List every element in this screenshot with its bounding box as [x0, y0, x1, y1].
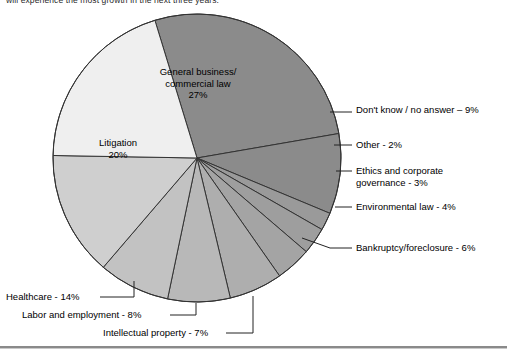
callout-bankruptcy-foreclosure: Bankruptcy/foreclosure - 6%: [356, 242, 475, 254]
slice-label-line: Litigation: [70, 137, 166, 149]
callout-ethics-governance: Ethics and corporate governance - 3%: [356, 165, 496, 188]
slice-label-line: General business/: [128, 66, 268, 78]
chart-canvas: will experience the most growth in the n…: [0, 0, 507, 357]
callout-environmental-law: Environmental law - 4%: [356, 201, 456, 213]
bottom-divider-shadow: [0, 348, 507, 349]
slice-label-litigation: Litigation 20%: [70, 137, 166, 160]
callout-line: governance - 3%: [356, 177, 496, 189]
callout-intellectual-property: Intellectual property - 7%: [103, 327, 208, 339]
slice-label-percent: 20%: [70, 149, 166, 161]
slice-label-line: commercial law: [128, 78, 268, 90]
slice-label-percent: 27%: [128, 89, 268, 101]
leader-line-labor: [170, 303, 196, 315]
callout-line: Ethics and corporate: [356, 165, 496, 177]
slice-label-general-business: General business/ commercial law 27%: [128, 66, 268, 101]
leader-line-intellectual: [226, 296, 253, 333]
callout-healthcare: Healthcare - 14%: [6, 291, 79, 303]
callout-other: Other - 2%: [356, 139, 402, 151]
callout-dont-know: Don't know / no answer – 9%: [356, 104, 479, 116]
callout-labor-employment: Labor and employment - 8%: [22, 309, 141, 321]
